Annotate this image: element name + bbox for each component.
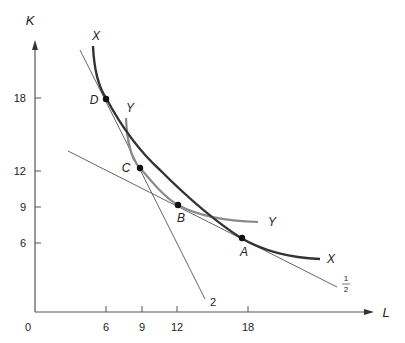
y-tick-label: 6	[20, 237, 26, 249]
point-d	[103, 96, 109, 102]
y-axis-label: K	[26, 13, 36, 28]
point-c	[137, 165, 143, 171]
y-tick-label: 12	[14, 165, 26, 177]
steep-line-slope-label: 2	[210, 296, 216, 308]
isoquant-x-curve	[93, 46, 320, 259]
origin-label: 0	[25, 321, 31, 333]
y-axis-arrow-icon	[32, 40, 38, 50]
y-tick-label: 18	[14, 92, 26, 104]
flat-line-slope-numerator: 1	[344, 274, 349, 283]
isoquant-y-label-top: Y	[126, 101, 135, 115]
flat-line-slope-denominator: 2	[344, 285, 349, 294]
x-tick-label: 9	[139, 321, 145, 333]
isoquant-y-curve	[126, 118, 258, 222]
point-d-label: D	[90, 93, 99, 107]
x-axis-arrow-icon	[364, 309, 374, 315]
isoquant-x-label-top: X	[91, 29, 101, 43]
point-c-label: C	[122, 161, 131, 175]
steep-isocost-line	[80, 50, 205, 299]
isoquant-y-label-end: Y	[268, 215, 277, 229]
x-tick-label: 6	[103, 321, 109, 333]
x-tick-label: 18	[242, 321, 254, 333]
point-b	[175, 202, 181, 208]
point-a-label: A	[239, 245, 248, 259]
x-axis-label: L	[382, 305, 389, 320]
isoquant-x-label-end: X	[326, 252, 336, 266]
isoquant-diagram: K L 0 6 9 12 18 18 12 9 6 2 1 2 Y Y X X …	[0, 0, 405, 343]
y-tick-label: 9	[20, 201, 26, 213]
x-tick-label: 12	[171, 321, 183, 333]
point-a	[239, 235, 245, 241]
point-b-label: B	[177, 211, 185, 225]
flat-isocost-line	[68, 151, 337, 287]
